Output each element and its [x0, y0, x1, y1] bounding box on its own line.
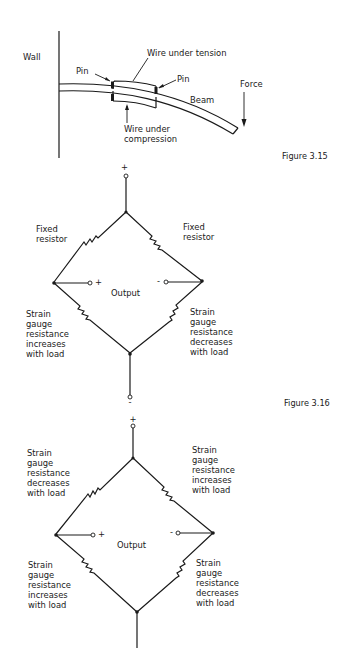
svg-text:decreases: decreases [190, 337, 233, 347]
label-strain-gauge-upper-left: Strain gauge resistance decreases with l… [27, 448, 70, 498]
bridge-top-output-plus-sign: + [95, 277, 102, 287]
wire-tension-leader [133, 58, 148, 81]
resistor-upper-left [54, 212, 126, 282]
wheatstone-bridge-top: + + - Output - Fixed resistor F [26, 162, 233, 407]
wire-compression-label-2: compression [124, 134, 177, 144]
svg-text:Fixed: Fixed [183, 222, 205, 232]
bridge-bottom-output-minus-sign: - [170, 527, 173, 537]
svg-text:Strain: Strain [27, 448, 52, 458]
wire-compression-label-1: Wire under [124, 124, 171, 134]
svg-text:with load: with load [192, 485, 230, 495]
wire-compression-arrowhead [125, 104, 129, 110]
label-fixed-resistor-left: Fixed resistor [36, 224, 68, 244]
label-strain-gauge-upper-right: Strain gauge resistance increases with l… [192, 445, 235, 495]
bridge-bottom-output-terminal-minus [176, 531, 180, 535]
svg-text:resistance: resistance [196, 578, 239, 588]
svg-text:decreases: decreases [27, 478, 70, 488]
bridge-bottom-output-label: Output [117, 540, 147, 550]
wire-tension [114, 81, 156, 86]
bridge-top-supply-terminal [124, 174, 128, 178]
svg-text:resistance: resistance [192, 465, 235, 475]
svg-text:resistance: resistance [27, 468, 70, 478]
wire-tension-label: Wire under tension [147, 48, 227, 58]
pin-left-label: Pin [76, 66, 89, 76]
svg-text:resistance: resistance [28, 580, 71, 590]
bridge-top-output-terminal-minus [164, 280, 168, 284]
pin-right-label: Pin [177, 74, 190, 84]
force-arrowhead [242, 119, 247, 127]
label-strain-gauge-lower-left: Strain gauge resistance increases with l… [26, 309, 69, 359]
label-strain-gauge-lower-left-2: Strain gauge resistance increases with l… [28, 560, 71, 610]
figure-3-15-caption: Figure 3.15 [282, 151, 328, 161]
pin-right-mark [155, 87, 158, 94]
svg-text:with load: with load [28, 600, 66, 610]
beam-end [233, 128, 238, 134]
bridge-bottom-output-terminal-plus [91, 533, 95, 537]
wall-label: Wall [23, 52, 41, 62]
label-strain-gauge-lower-right: Strain gauge resistance decreases with l… [190, 307, 233, 357]
label-fixed-resistor-right: Fixed resistor [183, 222, 215, 242]
svg-text:resistance: resistance [26, 329, 69, 339]
figure-canvas: Wall Pin Wire under tension Pin Beam Wir… [0, 0, 355, 648]
svg-text:Fixed: Fixed [36, 224, 58, 234]
svg-text:Strain: Strain [190, 307, 215, 317]
svg-text:gauge: gauge [26, 319, 52, 329]
figure-3-16-caption: Figure 3.16 [284, 398, 330, 408]
svg-text:gauge: gauge [196, 568, 222, 578]
bridge-top-output-terminal-plus [88, 281, 92, 285]
bridge-bottom-supply-plus: + [129, 414, 136, 424]
svg-text:with load: with load [27, 488, 65, 498]
bridge-top-supply-plus: + [121, 162, 128, 172]
svg-text:decreases: decreases [196, 588, 239, 598]
wire-compression [113, 101, 156, 108]
pin-left-arrowhead [105, 77, 110, 81]
svg-text:resistance: resistance [190, 327, 233, 337]
svg-text:gauge: gauge [192, 455, 218, 465]
pin-left-bottom-mark [111, 94, 114, 101]
svg-text:gauge: gauge [28, 570, 54, 580]
svg-text:increases: increases [192, 475, 232, 485]
svg-text:Strain: Strain [196, 558, 221, 568]
svg-text:Strain: Strain [26, 309, 51, 319]
wheatstone-bridge-bottom: + + - Output Strain gauge resistance dec… [27, 414, 239, 648]
figure-3-15-beam-diagram: Wall Pin Wire under tension Pin Beam Wir… [23, 31, 328, 161]
svg-text:increases: increases [26, 339, 66, 349]
bridge-bottom-supply-terminal [131, 424, 135, 428]
svg-text:gauge: gauge [27, 458, 53, 468]
bridge-top-output-label: Output [111, 288, 141, 298]
pin-right-arrowhead [158, 84, 164, 88]
svg-text:gauge: gauge [190, 317, 216, 327]
svg-text:resistor: resistor [36, 234, 68, 244]
svg-text:Strain: Strain [192, 445, 217, 455]
svg-text:increases: increases [28, 590, 68, 600]
svg-text:resistor: resistor [183, 232, 215, 242]
svg-text:with load: with load [196, 598, 234, 608]
bridge-top-return-minus: - [128, 397, 131, 407]
pin-left-top-mark [111, 82, 114, 89]
bridge-bottom-output-plus-sign: + [98, 529, 105, 539]
label-strain-gauge-lower-right-2: Strain gauge resistance decreases with l… [196, 558, 239, 608]
beam-label: Beam [190, 95, 214, 105]
force-label: Force [240, 79, 263, 89]
bridge-top-output-minus-sign: - [157, 276, 160, 286]
svg-text:with load: with load [26, 349, 64, 359]
svg-text:Strain: Strain [28, 560, 53, 570]
svg-text:with load: with load [190, 347, 228, 357]
